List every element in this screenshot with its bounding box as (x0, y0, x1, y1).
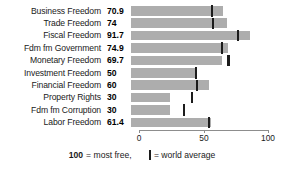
world-average-marker (191, 92, 193, 103)
world-average-marker (227, 55, 229, 66)
world-average-marker (195, 67, 197, 78)
world-average-marker-icon (149, 150, 151, 160)
value-bar (131, 6, 223, 16)
row-value: 61.4 (101, 118, 131, 127)
row-plot (131, 17, 284, 29)
legend-most-free-number: 100 (69, 150, 83, 160)
x-axis: 0 50 100 (139, 130, 269, 131)
chart-row: Financial Freedom60 (0, 79, 284, 91)
world-average-marker (221, 42, 223, 53)
value-bar (131, 68, 196, 78)
legend-world-average-text: = world average (154, 150, 215, 160)
row-label: Fdm fm Corruption (0, 106, 101, 115)
chart-legend: 100 = most free, = world average (0, 150, 284, 160)
row-plot (131, 42, 284, 54)
legend-most-free: 100 = most free, (69, 150, 132, 160)
row-plot (131, 117, 284, 129)
legend-world-average: = world average (149, 150, 216, 160)
value-bar (131, 93, 170, 103)
freedom-index-bar-chart: Business Freedom70.9Trade Freedom74Fisca… (0, 0, 284, 172)
value-bar (131, 56, 222, 66)
row-label: Fiscal Freedom (0, 31, 101, 40)
chart-row: Business Freedom70.9 (0, 5, 284, 17)
row-plot (131, 55, 284, 67)
chart-row: Fdm fm Corruption30 (0, 104, 284, 116)
chart-row: Trade Freedom74 (0, 17, 284, 29)
row-plot (131, 5, 284, 17)
chart-row: Investment Freedom50 (0, 67, 284, 79)
chart-row: Fiscal Freedom91.7 (0, 30, 284, 42)
row-value: 74.9 (101, 44, 131, 53)
legend-most-free-text: = most free, (86, 150, 132, 160)
world-average-marker (208, 117, 210, 128)
row-label: Financial Freedom (0, 81, 101, 90)
row-plot (131, 79, 284, 91)
world-average-marker (212, 18, 214, 29)
row-value: 30 (101, 93, 131, 102)
x-axis-label-0: 0 (137, 134, 142, 143)
value-bar (131, 43, 228, 53)
value-bar (131, 118, 211, 128)
world-average-marker (237, 30, 239, 41)
world-average-marker (196, 80, 198, 91)
row-label: Property Rights (0, 93, 101, 102)
world-average-marker (183, 104, 185, 115)
row-label: Labor Freedom (0, 118, 101, 127)
x-axis-label-100: 100 (261, 134, 275, 143)
row-plot (131, 92, 284, 104)
row-label: Business Freedom (0, 7, 101, 16)
chart-rows: Business Freedom70.9Trade Freedom74Fisca… (0, 5, 284, 129)
value-bar (131, 105, 170, 115)
row-label: Fdm fm Government (0, 44, 101, 53)
row-label: Monetary Freedom (0, 56, 101, 65)
chart-row: Fdm fm Government74.9 (0, 42, 284, 54)
chart-row: Property Rights30 (0, 92, 284, 104)
row-label: Investment Freedom (0, 69, 101, 78)
row-value: 60 (101, 81, 131, 90)
chart-row: Labor Freedom61.4 (0, 117, 284, 129)
chart-row: Monetary Freedom69.7 (0, 55, 284, 67)
x-axis-label-50: 50 (199, 134, 208, 143)
value-bar (131, 31, 250, 41)
row-plot (131, 104, 284, 116)
row-value: 74 (101, 19, 131, 28)
row-value: 70.9 (101, 7, 131, 16)
row-value: 69.7 (101, 56, 131, 65)
world-average-marker (211, 5, 213, 16)
row-value: 50 (101, 69, 131, 78)
row-plot (131, 67, 284, 79)
row-value: 30 (101, 106, 131, 115)
row-plot (131, 30, 284, 42)
row-label: Trade Freedom (0, 19, 101, 28)
row-value: 91.7 (101, 31, 131, 40)
